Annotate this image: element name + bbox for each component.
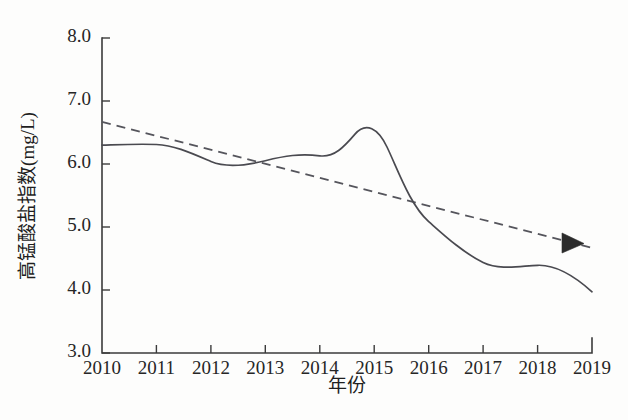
x-axis-title: 年份 (328, 375, 366, 396)
chart-figure: 3.0 4.0 5.0 6.0 7.0 8.0 2010 (0, 0, 628, 420)
x-tick-label-2012: 2012 (192, 357, 230, 378)
y-tick-labels: 3.0 4.0 5.0 6.0 7.0 8.0 (67, 25, 91, 361)
y-tick-label-8: 8.0 (67, 25, 91, 46)
trend-line-dashed (102, 122, 592, 248)
y-tick-label-7: 7.0 (67, 88, 91, 109)
x-tick-label-2013: 2013 (246, 357, 284, 378)
axis-frame (102, 38, 592, 353)
x-tick-label-2018: 2018 (519, 357, 557, 378)
x-tick-label-2017: 2017 (464, 357, 502, 378)
y-axis-title: 高锰酸盐指数(mg/L) (17, 112, 39, 280)
trend-line-arrow-icon (562, 233, 584, 253)
x-tick-label-2011: 2011 (138, 357, 175, 378)
y-tick-label-6: 6.0 (67, 151, 91, 172)
x-tick-label-2016: 2016 (410, 357, 448, 378)
permanganate-index-series (102, 128, 592, 292)
x-tick-label-2010: 2010 (83, 357, 121, 378)
y-tick-marks (102, 38, 110, 353)
y-tick-label-4: 4.0 (67, 277, 91, 298)
permanganate-index-line-chart: 3.0 4.0 5.0 6.0 7.0 8.0 2010 (0, 0, 628, 420)
x-tick-marks (156, 345, 537, 353)
y-tick-label-5: 5.0 (67, 214, 91, 235)
x-tick-label-2019: 2019 (573, 357, 611, 378)
